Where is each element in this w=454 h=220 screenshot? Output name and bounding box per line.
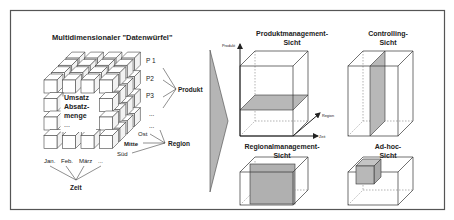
svg-text:Zeit: Zeit	[70, 184, 82, 191]
adhoc-subcube	[356, 159, 381, 184]
cube-title: Multidimensionaler "Datenwürfel"	[52, 33, 173, 42]
svg-text:Controlling-: Controlling-	[368, 30, 408, 38]
svg-text:Ost: Ost	[138, 131, 148, 137]
svg-text:...: ...	[98, 158, 103, 164]
svg-text:Region: Region	[168, 140, 190, 148]
svg-text:Produkt: Produkt	[222, 44, 236, 48]
svg-text:Ad-hoc-: Ad-hoc-	[375, 143, 402, 150]
svg-text:P 1: P 1	[146, 57, 156, 64]
svg-text:...: ...	[64, 121, 70, 128]
svg-text:Sicht: Sicht	[379, 152, 397, 159]
svg-text:Region: Region	[322, 114, 334, 118]
svg-text:Sicht: Sicht	[283, 39, 301, 46]
svg-text:Süd: Süd	[117, 151, 128, 157]
svg-text:Regionalmanagement-: Regionalmanagement-	[244, 143, 320, 151]
svg-text:Jan.: Jan.	[44, 158, 56, 164]
svg-text:Sicht: Sicht	[379, 39, 397, 46]
svg-text:Umsatz: Umsatz	[64, 94, 89, 101]
svg-text:P2: P2	[146, 75, 154, 82]
svg-text:Zeit: Zeit	[319, 135, 326, 139]
svg-text:Mitte: Mitte	[124, 141, 139, 147]
svg-text:...: ...	[149, 122, 155, 129]
svg-text:Absatz-: Absatz-	[64, 103, 90, 110]
controlling-slice	[370, 51, 385, 136]
svg-text:Produkt: Produkt	[178, 86, 203, 93]
region-slice	[250, 164, 295, 204]
svg-text:P3: P3	[146, 92, 154, 99]
svg-text:Produktmanagement-: Produktmanagement-	[256, 30, 329, 38]
datenwuerfel-diagram: Multidimensionaler "Datenwürfel" Umsatz …	[0, 0, 454, 220]
svg-text:Feb.: Feb.	[61, 158, 73, 164]
svg-text:Sicht: Sicht	[273, 152, 291, 159]
data-cube	[44, 52, 140, 148]
svg-text:März: März	[79, 158, 92, 164]
svg-text:menge: menge	[64, 112, 87, 120]
svg-text:...: ...	[149, 110, 155, 117]
